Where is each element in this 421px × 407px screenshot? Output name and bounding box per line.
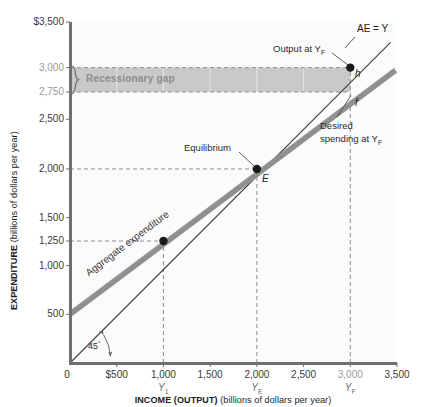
x-subtick-yf: YF <box>345 383 356 395</box>
point-label-f: f <box>355 98 358 108</box>
x-subtick-yf-sub: F <box>351 388 355 395</box>
x-subtick-yf-text: Y <box>345 382 352 393</box>
output-at-yf-sub: F <box>321 49 325 56</box>
angle-label-45: 45° <box>88 340 100 351</box>
x-tick-label-3000: 3,000 <box>338 370 363 380</box>
x-axis-title: INCOME (OUTPUT) (billions of dollars per… <box>135 396 332 405</box>
y-axis-title-rest: (billions of dollars per year) <box>9 131 19 245</box>
x-subtick-y1-text: Y <box>158 382 165 393</box>
point-E <box>253 165 261 173</box>
x-subtick-y1-sub: 1 <box>165 388 169 395</box>
x-subtick-ye-sub: E <box>258 388 263 395</box>
angle-label-45-degree-sign: ° <box>98 340 100 346</box>
point-label-h: h <box>355 69 361 79</box>
x-tick-label-1000: 1,000 <box>151 370 176 380</box>
x-tick-label-2500: 2,500 <box>291 370 316 380</box>
x-tick-label-500: $500 <box>106 370 128 380</box>
point-h <box>346 63 354 71</box>
point-g <box>159 237 167 245</box>
y-tick-label-2500: 2,500 <box>6 114 64 124</box>
y-tick-label-2750: 2,750 <box>6 87 64 97</box>
y-tick-label-3500: $3,500 <box>6 17 64 27</box>
angle-label-45-text: 45 <box>88 341 98 351</box>
x-subtick-ye: YE <box>251 383 262 395</box>
desired-spending-label-line1: Desired <box>320 121 353 131</box>
y-axis-title: EXPENDITURE (billions of dollars per yea… <box>10 131 19 310</box>
x-subtick-y1: Y1 <box>158 383 169 395</box>
x-tick-label-2000: 2,000 <box>244 370 269 380</box>
desired-spending-text: spending at Y <box>320 133 378 144</box>
desired-spending-label-line2: spending at YF <box>320 134 382 146</box>
x-axis-title-rest: (billions of dollars per year) <box>218 395 332 405</box>
y-tick-label-3000: 3,000 <box>6 63 64 73</box>
y-tick-label-500: 500 <box>6 309 64 319</box>
equilibrium-label: Equilibrium <box>184 143 231 153</box>
x-tick-label-1500: 1,500 <box>198 370 223 380</box>
x-axis-title-bold: INCOME (OUTPUT) <box>135 395 218 405</box>
x-tick-label-0: 0 <box>64 370 70 380</box>
x-tick-label-3500: 3,500 <box>384 370 409 380</box>
point-label-E: E <box>262 174 269 184</box>
aggregate-expenditure-chart: $3,500 3,000 2,750 2,500 2,000 1,500 1,2… <box>0 0 421 407</box>
recessionary-gap-label: Recessionary gap <box>86 74 175 84</box>
output-at-yf-text: Output at Y <box>273 43 321 54</box>
ae-equals-y-label: AE = Y <box>357 24 388 34</box>
y-axis-title-bold: EXPENDITURE <box>9 245 19 310</box>
output-at-yf-label: Output at YF <box>273 44 325 56</box>
x-subtick-ye-text: Y <box>251 382 258 393</box>
desired-spending-sub: F <box>378 139 382 146</box>
